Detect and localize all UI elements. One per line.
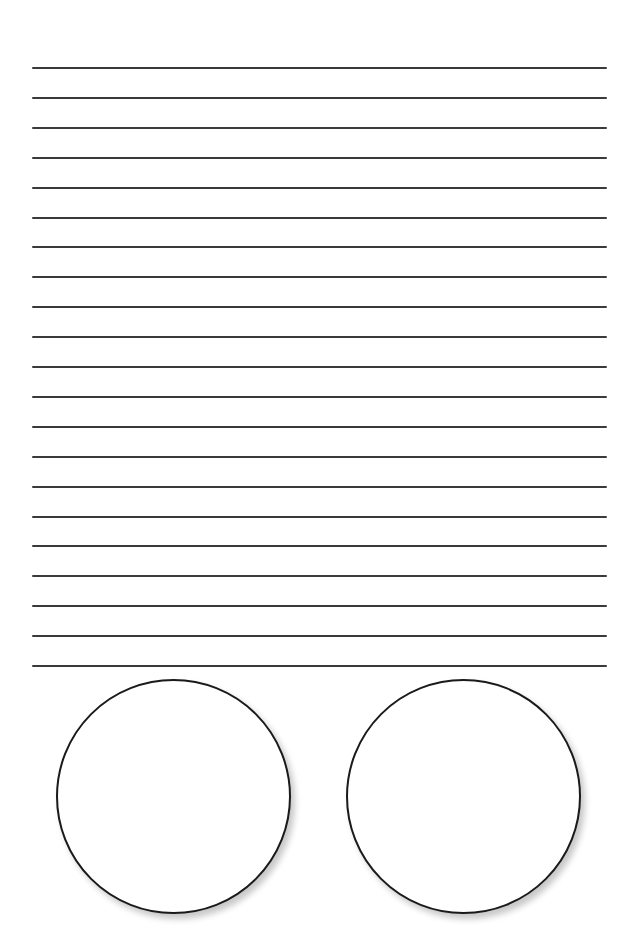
ruled-line bbox=[32, 67, 607, 69]
ruled-line bbox=[32, 396, 607, 398]
ruled-line bbox=[32, 605, 607, 607]
right-circle bbox=[346, 679, 581, 914]
ruled-line bbox=[32, 665, 607, 667]
ruled-line bbox=[32, 336, 607, 338]
ruled-line bbox=[32, 217, 607, 219]
ruled-line bbox=[32, 97, 607, 99]
ruled-line bbox=[32, 276, 607, 278]
ruled-line bbox=[32, 157, 607, 159]
ruled-line bbox=[32, 545, 607, 547]
ruled-line bbox=[32, 575, 607, 577]
ruled-line bbox=[32, 306, 607, 308]
ruled-line bbox=[32, 635, 607, 637]
ruled-line bbox=[32, 246, 607, 248]
ruled-line bbox=[32, 127, 607, 129]
ruled-line bbox=[32, 456, 607, 458]
left-circle bbox=[56, 679, 291, 914]
ruled-line bbox=[32, 486, 607, 488]
ruled-line bbox=[32, 516, 607, 518]
ruled-line bbox=[32, 366, 607, 368]
ruled-lines-area bbox=[32, 0, 607, 700]
ruled-line bbox=[32, 187, 607, 189]
ruled-line bbox=[32, 426, 607, 428]
